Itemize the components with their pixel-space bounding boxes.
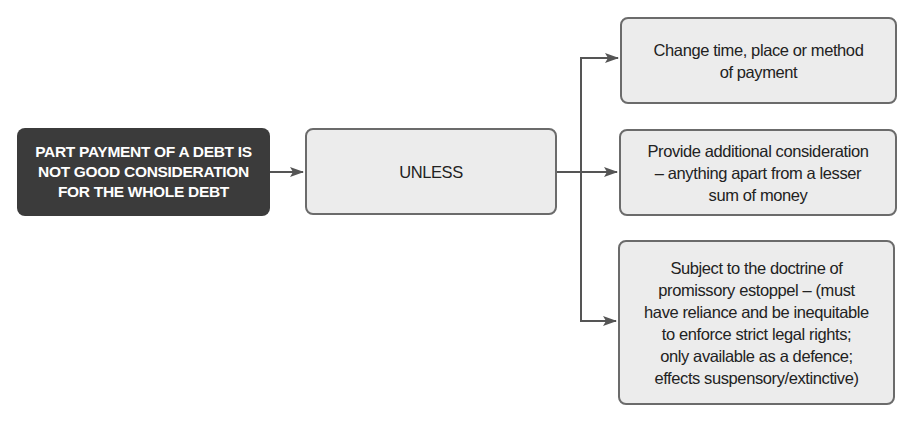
outcome-label: Subject to the doctrine of promissory es… [644, 257, 869, 389]
outcome-label: Change time, place or method of payment [654, 39, 864, 83]
outcome-node-change-terms: Change time, place or method of payment [620, 17, 897, 104]
outcome-label: Provide additional consideration – anyth… [647, 140, 868, 206]
outcome-node-promissory-estoppel: Subject to the doctrine of promissory es… [618, 240, 895, 405]
unless-node: UNLESS [305, 128, 557, 215]
outcome-node-additional-consideration: Provide additional consideration – anyth… [619, 129, 897, 216]
source-node: PART PAYMENT OF A DEBT IS NOT GOOD CONSI… [17, 128, 270, 216]
unless-node-label: UNLESS [399, 161, 463, 183]
source-node-label: PART PAYMENT OF A DEBT IS NOT GOOD CONSI… [35, 142, 252, 202]
